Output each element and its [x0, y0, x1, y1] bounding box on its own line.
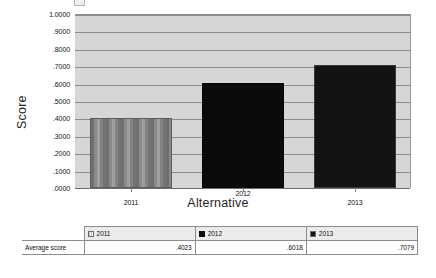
bar-2013	[314, 65, 396, 188]
bars-layer	[75, 15, 410, 188]
bar-chart: Score .0000.1000.2000.3000.4000.5000.600…	[0, 0, 436, 215]
plot-area	[75, 14, 411, 188]
y-axis-tick-label: .3000	[53, 132, 70, 139]
table-corner-cell	[22, 227, 84, 241]
table-cell-2013: .7079	[306, 241, 417, 255]
y-axis-tick-label: .4000	[53, 115, 70, 122]
table-header-row: 201120122013	[22, 227, 418, 241]
y-axis-tick-label: .9000	[53, 28, 70, 35]
bar-2012	[202, 83, 284, 188]
y-axis-tick-label: .1000	[53, 167, 70, 174]
data-table: 201120122013 Average score.4023.6018.707…	[22, 226, 418, 255]
y-axis-tick-labels: .0000.1000.2000.3000.4000.5000.6000.7000…	[33, 10, 73, 188]
table-column-header-label: 2012	[208, 230, 222, 237]
y-axis-tick-label: .8000	[53, 45, 70, 52]
table-column-header-2012: 2012	[195, 227, 306, 241]
table-column-header-2013: 2013	[306, 227, 417, 241]
y-axis-tick-label: .7000	[53, 63, 70, 70]
y-axis-tick-label: .0000	[53, 185, 70, 192]
table-column-header-label: 2013	[319, 230, 333, 237]
table-row-label: Average score	[22, 241, 84, 255]
table-cell-2012: .6018	[195, 241, 306, 255]
table-row: Average score.4023.6018.7079	[22, 241, 418, 255]
bar-2011	[90, 118, 172, 188]
x-axis-title: Alternative	[0, 196, 436, 210]
dark-outline-swatch-icon	[310, 231, 316, 237]
y-axis-tick-label: .5000	[53, 98, 70, 105]
y-axis-tick-label: .2000	[53, 150, 70, 157]
y-axis-tick-label: 1.0000	[49, 11, 70, 18]
table-column-header-2011: 2011	[84, 227, 195, 241]
table-column-header-label: 2011	[97, 230, 111, 237]
table-body: Average score.4023.6018.7079	[22, 241, 418, 255]
y-axis-title: Score	[11, 72, 33, 152]
table-cell-2011: .4023	[84, 241, 195, 255]
solid-dark-swatch-icon	[199, 231, 205, 237]
y-axis-tick-label: .6000	[53, 80, 70, 87]
data-table-container: 201120122013 Average score.4023.6018.707…	[22, 226, 418, 255]
striped-swatch-icon	[88, 231, 94, 237]
